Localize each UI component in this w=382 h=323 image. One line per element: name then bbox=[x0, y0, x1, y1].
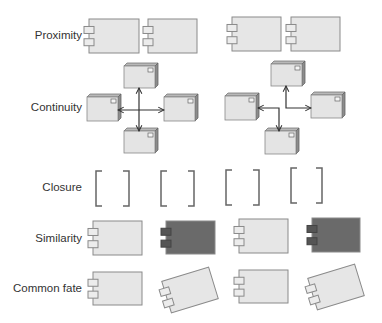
port-icon bbox=[143, 39, 153, 46]
port-icon bbox=[227, 37, 237, 44]
closure-group bbox=[96, 168, 322, 206]
port-icon bbox=[227, 24, 237, 31]
similarity-group bbox=[88, 218, 360, 255]
common-fate-group bbox=[88, 264, 364, 314]
continuity-right-node-2 bbox=[225, 93, 259, 120]
common-fate-component-1 bbox=[88, 272, 142, 305]
continuity-right-node-3 bbox=[311, 92, 345, 118]
port-icon bbox=[286, 24, 296, 31]
continuity-left-node-3 bbox=[164, 94, 198, 121]
connector-line bbox=[258, 108, 279, 131]
port-icon bbox=[88, 279, 98, 286]
continuity-left-node-1 bbox=[124, 63, 158, 88]
similarity-component-1 bbox=[88, 221, 142, 255]
closure-bracket-pair-4 bbox=[291, 168, 322, 203]
gestalt-diagram bbox=[0, 0, 382, 323]
port-icon bbox=[88, 291, 98, 298]
node-icon bbox=[289, 133, 294, 137]
proximity-component-1 bbox=[84, 19, 139, 53]
similarity-component-3 bbox=[234, 219, 288, 253]
similarity-component-2 bbox=[161, 221, 215, 254]
common-fate-component-2 bbox=[157, 267, 218, 314]
proximity-component-2 bbox=[143, 19, 197, 53]
node-icon bbox=[111, 99, 116, 103]
similarity-component-4 bbox=[307, 218, 360, 252]
closure-bracket-pair-1 bbox=[96, 171, 129, 206]
port-icon bbox=[307, 238, 317, 245]
port-icon bbox=[307, 225, 317, 232]
port-icon bbox=[161, 228, 171, 235]
node-icon bbox=[295, 66, 300, 70]
port-icon bbox=[234, 277, 244, 284]
connector-line bbox=[286, 86, 311, 108]
node-icon bbox=[148, 133, 153, 137]
node-icon bbox=[335, 97, 340, 101]
closure-bracket-pair-3 bbox=[226, 170, 259, 205]
continuity-right-node-1 bbox=[271, 61, 305, 86]
port-icon bbox=[234, 239, 244, 246]
node-icon bbox=[188, 99, 193, 103]
continuity-left-node-4 bbox=[124, 128, 158, 153]
port-icon bbox=[143, 26, 153, 33]
port-icon bbox=[234, 289, 244, 296]
port-icon bbox=[286, 37, 296, 44]
continuity-group bbox=[87, 61, 345, 154]
port-icon bbox=[161, 240, 171, 247]
port-icon bbox=[84, 39, 94, 46]
continuity-right-node-4 bbox=[265, 128, 299, 154]
port-icon bbox=[88, 241, 98, 248]
proximity-group bbox=[84, 17, 340, 53]
port-icon bbox=[88, 228, 98, 235]
node-icon bbox=[249, 98, 254, 102]
proximity-component-3 bbox=[227, 17, 281, 51]
common-fate-component-4 bbox=[303, 264, 364, 311]
port-icon bbox=[234, 226, 244, 233]
node-icon bbox=[148, 68, 153, 72]
closure-bracket-pair-2 bbox=[161, 171, 194, 206]
proximity-component-4 bbox=[286, 17, 340, 51]
common-fate-component-3 bbox=[234, 270, 288, 303]
continuity-left-node-2 bbox=[87, 94, 121, 121]
port-icon bbox=[84, 26, 94, 33]
